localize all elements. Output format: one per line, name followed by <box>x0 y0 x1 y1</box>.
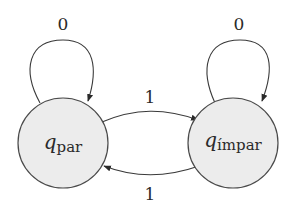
state-subscript: ímpar <box>217 136 263 154</box>
label-loop-q-impar: 0 <box>234 14 245 34</box>
state-q-impar: qímpar <box>188 98 278 188</box>
edge-impar-to-par <box>104 166 199 175</box>
state-symbol: q <box>204 128 217 152</box>
state-symbol: q <box>44 130 57 154</box>
state-q-par: qpar <box>18 98 108 188</box>
label-par-to-impar: 1 <box>145 87 156 107</box>
edge-par-to-impar <box>102 111 198 122</box>
label-loop-q-par: 0 <box>58 14 69 34</box>
self-loop-q-par <box>30 40 93 103</box>
label-impar-to-par: 1 <box>145 184 156 204</box>
self-loop-q-impar <box>207 40 269 103</box>
state-subscript: par <box>57 138 84 156</box>
state-diagram: 0 0 1 1 qpar qímpar <box>0 0 296 207</box>
